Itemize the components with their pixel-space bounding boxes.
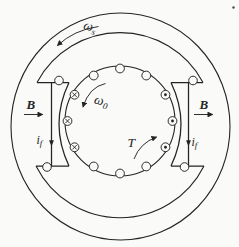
i-f-left-sub: f xyxy=(40,138,44,148)
stray-mark xyxy=(232,6,234,8)
rotor-conductor-300 xyxy=(142,162,151,171)
current-out-dot-icon xyxy=(171,120,174,123)
rotor-circle xyxy=(65,66,175,176)
field-current-label-left: if xyxy=(37,133,44,149)
field-current-arrowhead-right xyxy=(186,140,191,146)
current-out-dot-icon xyxy=(164,93,167,96)
machine-cross-section-diagram: ωs ω0 B B if if T xyxy=(0,0,239,247)
right-pole-coil-bottom xyxy=(180,163,189,172)
flux-label-right: B xyxy=(199,97,209,112)
rotor-conductor-90 xyxy=(116,64,125,73)
field-current-arrowhead-left xyxy=(49,140,54,146)
field-current-label-right: if xyxy=(192,135,199,151)
rotor-conductor-240 xyxy=(89,162,98,171)
rotor-conductor-120 xyxy=(89,71,98,80)
rotor-conductor-270 xyxy=(116,169,125,178)
flux-label-left: B xyxy=(26,97,36,112)
left-pole-coil-top xyxy=(55,76,64,85)
i-f-right-sub: f xyxy=(195,140,199,150)
right-pole-coil-top xyxy=(189,76,198,85)
stator-speed-label: ωs xyxy=(81,17,99,37)
current-out-dot-icon xyxy=(164,146,167,149)
rotor-conductor-60 xyxy=(142,71,151,80)
left-pole-coil-bottom xyxy=(43,163,52,172)
